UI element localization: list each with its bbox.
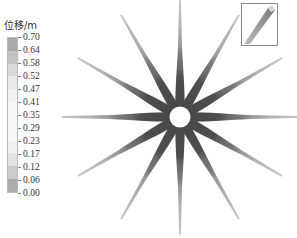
center-hole (170, 107, 191, 128)
arm (175, 123, 185, 235)
inset-arm-icon (242, 4, 277, 45)
arm (62, 112, 174, 122)
arm (186, 112, 297, 122)
arm (175, 0, 185, 111)
inset-arm-view (241, 3, 278, 46)
